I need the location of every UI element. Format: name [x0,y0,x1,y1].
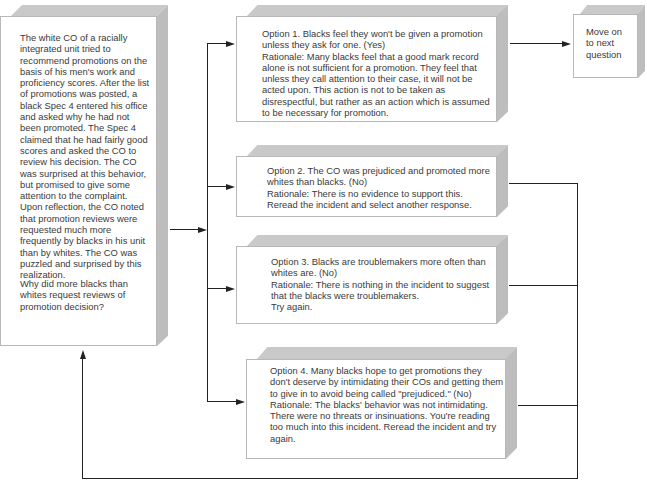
next-question-side [638,5,645,78]
next-question-top [580,5,645,14]
option-4-top [257,347,517,359]
next-connector-line [510,43,568,44]
option-2-text: Option 2. The CO was prejudiced and prom… [267,165,495,210]
next-arrow-icon [562,41,571,47]
option-4-side [506,347,517,459]
option-1-top [247,5,508,16]
option-4-text: Option 4. Many blacks hope to get promot… [270,365,504,444]
option-1-side [497,5,508,122]
option-4-out-line [518,405,578,406]
return-vertical-line [577,183,578,479]
branch-vertical-line [207,43,208,402]
scenario-box-side [157,5,168,346]
scenario-question: Why did more blacks than whites request … [20,278,150,312]
option-3-top [247,235,508,246]
option-3-side [497,235,508,324]
option-3-arrow-icon [226,286,235,292]
option-2-top [247,145,508,156]
option-3-text: Option 3. Blacks are troublemakers more … [271,256,495,312]
option-1-text: Option 1. Blacks feel they won't be give… [262,28,494,118]
option-4-arrow-icon [236,399,245,405]
return-bottom-line [82,478,578,479]
option-2-side [497,145,508,217]
return-arrow-icon [80,350,86,359]
scenario-box-top [11,5,168,16]
next-question-text: Move on to next question [586,26,636,60]
option-2-out-line [509,183,578,184]
scenario-arrow-icon [198,227,207,233]
return-up-line [82,358,83,479]
scenario-text: The white CO of a racially integrated un… [20,32,150,281]
option-1-arrow-icon [226,41,235,47]
option-2-arrow-icon [226,184,235,190]
option-3-out-line [509,285,578,286]
